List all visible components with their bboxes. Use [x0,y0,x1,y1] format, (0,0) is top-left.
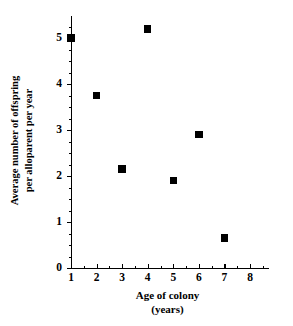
data-point [144,25,152,33]
y-tick-minor [69,61,72,62]
y-tick-minor [69,50,72,51]
x-tick-minor [109,266,110,269]
x-tick-minor [263,266,264,269]
x-tick-label-5: 5 [163,272,183,284]
x-tick-minor [212,266,213,269]
y-tick-major-4 [67,84,72,85]
x-tick-label-8: 8 [240,272,260,284]
y-tick-minor [69,73,72,74]
y-tick-label-4: 4 [44,78,62,90]
x-tick-major-5 [173,264,174,269]
data-point [195,131,203,139]
y-tick-minor [69,27,72,28]
y-tick-minor [69,107,72,108]
y-tick-minor [69,188,72,189]
x-tick-major-2 [97,264,98,269]
scatter-chart-figure: Average number of offspring per allopare… [0,0,293,326]
y-tick-major-2 [67,176,72,177]
data-point [170,177,178,185]
x-axis-title-line-2: (years) [60,303,275,317]
x-tick-minor [237,266,238,269]
y-axis-line [71,16,72,269]
y-tick-minor [69,234,72,235]
y-tick-minor [69,199,72,200]
x-tick-label-2: 2 [87,272,107,284]
y-tick-label-1: 1 [44,216,62,228]
x-tick-major-7 [224,264,225,269]
x-tick-major-1 [71,264,72,269]
x-tick-minor [135,266,136,269]
y-tick-minor [69,165,72,166]
x-tick-minor [84,266,85,269]
x-tick-label-1: 1 [61,272,81,284]
y-tick-minor [69,257,72,258]
y-tick-minor [69,153,72,154]
y-tick-label-5: 5 [44,32,62,44]
x-axis-title-line-1: Age of colony [60,289,275,303]
x-tick-minor [186,266,187,269]
x-tick-label-7: 7 [214,272,234,284]
x-axis-line [71,268,269,269]
data-point [67,34,75,42]
y-tick-minor [69,119,72,120]
data-point [93,92,101,100]
y-tick-label-0: 0 [44,262,62,274]
y-tick-minor [69,142,72,143]
x-tick-label-6: 6 [189,272,209,284]
y-tick-major-3 [67,130,72,131]
x-tick-label-4: 4 [138,272,158,284]
x-tick-major-8 [250,264,251,269]
y-tick-minor [69,211,72,212]
y-tick-label-2: 2 [44,170,62,182]
x-tick-label-3: 3 [112,272,132,284]
y-tick-label-3: 3 [44,124,62,136]
x-tick-major-3 [122,264,123,269]
x-axis-title: Age of colony (years) [60,289,275,316]
y-tick-major-1 [67,222,72,223]
x-tick-minor [161,266,162,269]
plot-area: 5 4 3 2 1 0 1 2 3 4 5 6 7 8 [0,0,293,326]
y-tick-minor [69,245,72,246]
data-point [221,234,229,242]
y-tick-minor [69,96,72,97]
data-point [118,165,126,173]
x-tick-major-6 [199,264,200,269]
x-tick-major-4 [148,264,149,269]
